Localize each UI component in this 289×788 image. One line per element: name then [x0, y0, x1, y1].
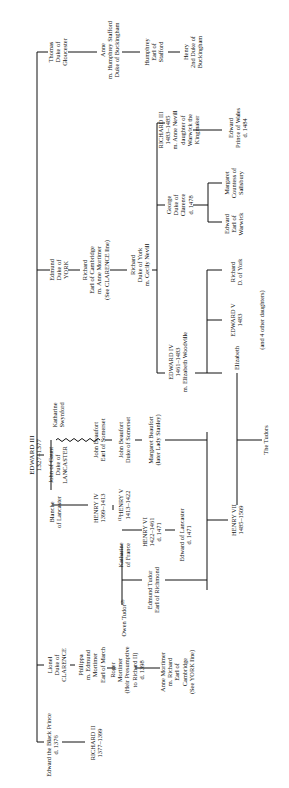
node-henry-vii: HENRY VII1485–1509	[230, 504, 244, 536]
node-richard-ii: RICHARD II1377–1399	[89, 726, 103, 761]
node-richard-duke-york: RichardDuke of Yorkm. Cecily Nevill	[129, 244, 151, 286]
node-anne-stafford: Annem. Humphrey StaffordDuke of Buckingh…	[99, 21, 121, 79]
node-thomas-gloucester: ThomasDuke ofGloucester	[47, 38, 69, 66]
node-owen-tudor: Owen Tudor⁽²⁾	[120, 599, 127, 636]
node-the-tudors: The Tudors	[262, 425, 269, 454]
node-katharine-france: Katharineof France	[117, 542, 131, 567]
node-humphrey-stafford: HumphreyEarl ofStafford	[143, 38, 165, 65]
node-black-prince: Edward the Black Princed. 1376	[45, 713, 59, 777]
node-other-daughters: (and 4 other daughters)	[258, 290, 265, 349]
node-katharine-swynford: KatharineSwynford	[51, 402, 65, 427]
family-tree-diagram: EDWARD III1327–1377 ThomasDuke ofGlouces…	[0, 0, 289, 788]
node-elizabeth: Elizabeth	[233, 346, 240, 370]
node-edward-of-lancaster: Edward of Lancasterd. 1471	[178, 508, 192, 561]
node-philippa: Philippam. EdmundMortimerEarl of March	[77, 647, 106, 683]
node-edward-iii: EDWARD III1327–1377	[28, 435, 42, 475]
node-edward-iv: EDWARD IV1461–1483m. Elizabeth Woodville	[167, 332, 189, 392]
node-edward-warwick: EdwardEarl ofWarwick	[223, 213, 245, 236]
node-margaret-beaufort: Margaret Beaufort(later Lady Stanley)	[147, 414, 161, 465]
node-henry-v: ⁽¹⁾HENRY V1413–1422	[117, 489, 131, 522]
node-john-beaufort-earl: John BeaufortEarl of Somerset	[92, 419, 106, 462]
node-blanche-lancaster: Blancheof Lancaster	[48, 496, 62, 528]
node-henry-buckingham: Henry2nd Duke ofBuckingham	[182, 36, 204, 69]
node-george-clarence: GeorgeDuke ofClarenced. 1478	[165, 194, 194, 217]
node-anne-mortimer: Anne Mortimerm. RichardEarl ofCambridge(…	[159, 650, 195, 694]
node-edmund-tudor: Edmund TudorEarl of Richmond	[146, 567, 160, 613]
node-richard-iii: RICHARD III1483–1485m. Anne Nevilldaught…	[157, 110, 200, 149]
node-edmund-york: EdmundDuke ofYORK	[48, 259, 70, 281]
node-edward-prince-wales: EdwardPrince of Walesd. 1484	[227, 108, 249, 148]
node-lionel-clarence: LionelDuke ofCLARENCE	[46, 648, 68, 682]
node-henry-vi: HENRY VI1422–1461d. 1471	[141, 517, 163, 547]
node-edward-v: EDWARD V1483	[229, 303, 243, 336]
node-john-of-gaunt: John of GauntDuke ofLANCASTER	[47, 446, 69, 484]
node-henry-iv: HENRY IV1399–1413	[92, 493, 106, 523]
node-john-beaufort-duke: John BeaufortDuke of Somerset	[117, 417, 131, 463]
node-margaret-salisbury: MargaretCountess ofSalisbury	[223, 168, 245, 198]
node-richard-d-york: RichardD. of York	[229, 259, 243, 286]
node-roger-mortimer: RogerMortimer(Heir Presumptiveto Richard…	[109, 646, 145, 693]
node-richard-cambridge: RichardEarl of Cambridgem. Anne Mortimer…	[81, 240, 110, 300]
